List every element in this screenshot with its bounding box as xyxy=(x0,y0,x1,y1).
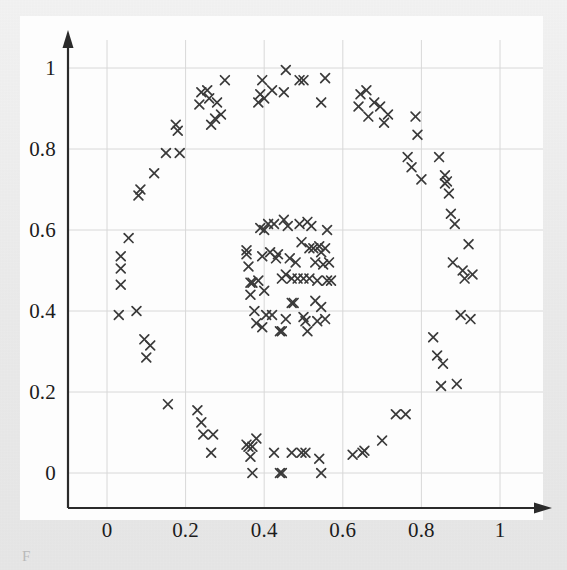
data-point xyxy=(321,74,330,83)
data-point xyxy=(270,448,279,457)
data-point xyxy=(244,262,253,271)
data-point xyxy=(307,222,316,231)
data-point xyxy=(401,410,410,419)
data-point xyxy=(285,254,294,263)
data-point xyxy=(446,209,455,218)
data-point xyxy=(354,102,363,111)
data-point xyxy=(258,76,267,85)
y-axis-tick-label: 0.8 xyxy=(6,137,56,162)
y-axis-tick-label: 0.4 xyxy=(6,299,56,324)
data-point xyxy=(114,311,123,320)
data-point xyxy=(162,149,171,158)
figure-page: 00.20.40.60.8100.20.40.60.81 F xyxy=(0,0,567,570)
data-point xyxy=(403,153,412,162)
y-axis-tick-label: 0 xyxy=(6,461,56,486)
data-point xyxy=(313,276,322,285)
data-point xyxy=(356,90,365,99)
data-point xyxy=(464,240,473,249)
data-point xyxy=(291,258,300,267)
axes xyxy=(63,30,553,514)
data-point xyxy=(270,220,279,229)
data-point xyxy=(456,311,465,320)
data-point xyxy=(146,341,155,350)
data-point xyxy=(437,382,446,391)
data-point xyxy=(466,315,475,324)
x-axis-tick-label: 0.6 xyxy=(329,518,356,543)
x-axis-arrowhead xyxy=(534,503,552,514)
data-markers xyxy=(114,66,477,478)
data-point xyxy=(246,290,255,299)
data-point xyxy=(281,270,290,279)
data-point xyxy=(150,169,159,178)
caption-fragment: F xyxy=(22,548,62,564)
scatter-plot xyxy=(0,0,567,570)
data-point xyxy=(317,303,326,312)
data-point xyxy=(435,153,444,162)
data-point xyxy=(175,149,184,158)
data-point xyxy=(124,234,133,243)
data-point xyxy=(411,112,420,121)
y-axis-tick-label: 0.6 xyxy=(6,218,56,243)
data-point xyxy=(458,266,467,275)
data-point xyxy=(452,380,461,389)
data-point xyxy=(254,98,263,107)
data-point xyxy=(448,258,457,267)
y-axis-tick-label: 0.2 xyxy=(6,380,56,405)
data-point xyxy=(142,353,151,362)
data-point xyxy=(268,311,277,320)
data-point xyxy=(252,319,261,328)
data-point xyxy=(413,130,422,139)
y-axis-tick-label: 1 xyxy=(6,56,56,81)
data-point xyxy=(370,98,379,107)
data-point xyxy=(364,112,373,121)
data-point xyxy=(221,76,230,85)
data-point xyxy=(391,410,400,419)
data-point xyxy=(209,430,218,439)
data-point xyxy=(315,454,324,463)
data-point xyxy=(321,315,330,324)
data-point xyxy=(199,430,208,439)
data-point xyxy=(207,448,216,457)
data-point xyxy=(317,98,326,107)
y-axis-arrowhead xyxy=(63,30,74,48)
data-point xyxy=(407,163,416,172)
data-point xyxy=(429,333,438,342)
x-axis-tick-label: 1 xyxy=(495,518,506,543)
data-point xyxy=(116,280,125,289)
data-point xyxy=(116,264,125,273)
data-point xyxy=(281,315,290,324)
x-axis-tick-label: 0 xyxy=(102,518,113,543)
x-axis-tick-label: 0.8 xyxy=(408,518,435,543)
data-point xyxy=(433,351,442,360)
data-point xyxy=(297,238,306,247)
data-point xyxy=(246,452,255,461)
data-point xyxy=(197,418,206,427)
data-point xyxy=(258,323,267,332)
data-point xyxy=(439,359,448,368)
x-axis-tick-label: 0.2 xyxy=(172,518,199,543)
data-point xyxy=(193,406,202,415)
data-point xyxy=(268,86,277,95)
data-point xyxy=(378,436,387,445)
data-point xyxy=(164,400,173,409)
data-point xyxy=(450,220,459,229)
data-point xyxy=(281,66,290,75)
data-point xyxy=(287,448,296,457)
data-point xyxy=(217,110,226,119)
data-point xyxy=(348,450,357,459)
x-axis-tick-label: 0.4 xyxy=(251,518,278,543)
data-point xyxy=(279,88,288,97)
data-point xyxy=(195,100,204,109)
data-point xyxy=(362,86,371,95)
data-point xyxy=(445,189,454,198)
data-point xyxy=(116,252,125,261)
data-point xyxy=(303,327,312,336)
